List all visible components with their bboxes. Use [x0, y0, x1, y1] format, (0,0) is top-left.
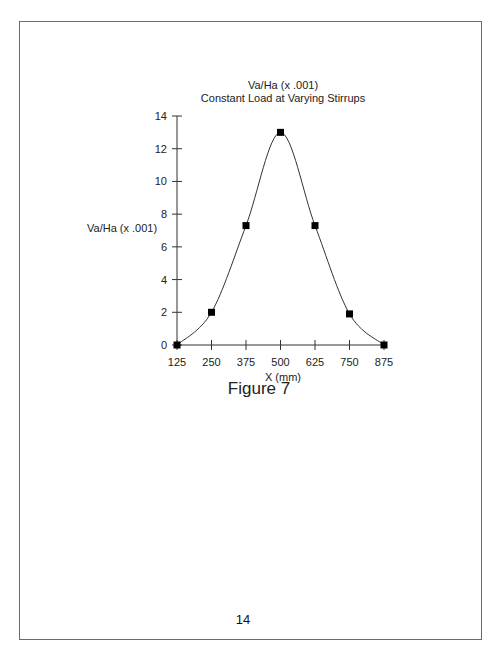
y-axis-label: Va/Ha (x .001)	[87, 222, 157, 234]
data-point-marker	[346, 310, 353, 317]
data-point-marker	[381, 342, 388, 349]
x-tick-label: 250	[202, 356, 220, 368]
x-tick-label: 625	[306, 356, 324, 368]
y-tick-label: 4	[161, 274, 167, 286]
y-tick-label: 12	[155, 143, 167, 155]
data-point-marker	[243, 222, 250, 229]
x-tick-label: 500	[271, 356, 289, 368]
data-point-marker	[277, 129, 284, 136]
page-number: 14	[223, 612, 263, 627]
chart-plot: 02468101214125250375500625750875	[0, 0, 496, 651]
data-point-marker	[312, 222, 319, 229]
y-tick-label: 0	[161, 339, 167, 351]
y-tick-label: 10	[155, 175, 167, 187]
chart-ticks: 02468101214125250375500625750875	[155, 110, 393, 368]
y-tick-label: 6	[161, 241, 167, 253]
data-point-marker	[174, 342, 181, 349]
y-tick-label: 8	[161, 208, 167, 220]
y-tick-label: 14	[155, 110, 167, 122]
y-tick-label: 2	[161, 306, 167, 318]
x-tick-label: 375	[237, 356, 255, 368]
data-markers	[174, 129, 388, 349]
x-tick-label: 125	[168, 356, 186, 368]
x-tick-label: 875	[375, 356, 393, 368]
figure-caption: Figure 7	[199, 379, 319, 399]
x-tick-label: 750	[340, 356, 358, 368]
data-point-marker	[208, 309, 215, 316]
